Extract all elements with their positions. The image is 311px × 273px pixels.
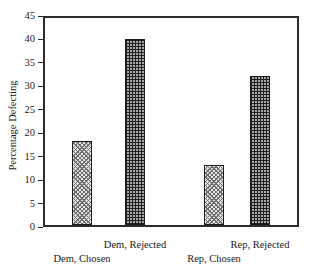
chart-title-clipped: National Election Studies — [0, 0, 311, 4]
x-label-rep-rejected: Rep, Rejected — [231, 239, 290, 250]
y-tick-label: 5 — [0, 198, 35, 210]
plot-area — [43, 16, 299, 227]
bar-rep-chosen — [204, 165, 224, 225]
chart-title: National Election Studies — [0, 0, 311, 2]
x-label-rep-chosen: Rep, Chosen — [187, 253, 241, 264]
y-tick-label: 25 — [0, 104, 35, 116]
bar-chart: National Election Studies Percentage Def… — [0, 0, 311, 273]
x-label-dem-rejected: Dem, Rejected — [104, 239, 166, 250]
y-tick-label: 30 — [0, 80, 35, 92]
bar-dem-rejected — [125, 39, 145, 225]
y-tick-label: 40 — [0, 33, 35, 45]
bar-dem-chosen — [72, 141, 92, 225]
y-tick-label: 35 — [0, 57, 35, 69]
bar-rep-rejected — [250, 76, 270, 225]
y-tick-label: 20 — [0, 127, 35, 139]
y-tick-label: 15 — [0, 151, 35, 163]
x-label-dem-chosen: Dem, Chosen — [53, 253, 110, 264]
y-tick-label: 10 — [0, 174, 35, 186]
y-tick-label: 0 — [0, 221, 35, 233]
y-tick-label: 45 — [0, 10, 35, 22]
